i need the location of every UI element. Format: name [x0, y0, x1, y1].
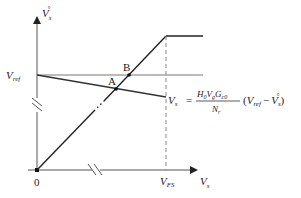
- y-axis: Vs°: [32, 5, 52, 170]
- vfs-label: VFS: [160, 175, 175, 189]
- vref-label: Vref: [6, 69, 21, 83]
- x-axis: Vs: [28, 164, 210, 190]
- svg-text:Vs: Vs: [168, 94, 178, 108]
- point-b-label: B: [123, 61, 130, 73]
- point-a: [114, 87, 118, 91]
- y-axis-label: Vs°: [42, 5, 52, 22]
- y-axis-break-icon: [32, 98, 42, 111]
- x-axis-label: Vs: [200, 175, 210, 190]
- controller-equation: Vs = H0VgGc0 Nr (Vref−Vs°): [168, 89, 284, 115]
- svg-text:=: =: [186, 94, 192, 106]
- svg-text:Nr: Nr: [211, 104, 221, 115]
- point-a-label: A: [108, 75, 116, 87]
- svg-text:H0VgGc0: H0VgGc0: [196, 89, 227, 100]
- diagram-figure: Vs° Vs 0 Vref VFS: [0, 0, 301, 198]
- point-b: [127, 73, 131, 77]
- plant-curve: [37, 36, 203, 170]
- controller-line: [37, 75, 166, 97]
- origin-label: 0: [34, 176, 40, 188]
- svg-text:(Vref−Vs°): (Vref−Vs°): [243, 92, 284, 108]
